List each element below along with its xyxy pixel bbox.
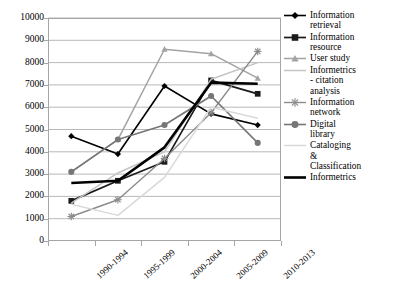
data-point-marker [292, 34, 299, 41]
data-point-marker [255, 140, 261, 146]
legend-label: Information retrieval [310, 10, 354, 31]
data-point-marker [68, 133, 74, 139]
legend-marker-diamond-icon [283, 10, 307, 21]
legend-item[interactable]: User study [283, 53, 398, 64]
legend-label: Informetrics [310, 172, 356, 182]
legend-item[interactable]: Information resource [283, 32, 398, 53]
legend-label: Information network [310, 97, 354, 118]
line-chart: 1000090008000700060005000400030002000100… [0, 0, 300, 300]
data-point-marker [255, 91, 261, 97]
legend-marker-circle-icon [283, 119, 307, 130]
legend-label: Information resource [310, 32, 354, 53]
series-line [71, 49, 257, 172]
data-point-marker [291, 98, 300, 107]
legend-marker-asterisk-icon [283, 97, 307, 108]
legend-marker-square-icon [283, 32, 307, 43]
legend-item[interactable]: Information retrieval [283, 10, 398, 31]
chart-screenshot: 1000090008000700060005000400030002000100… [0, 0, 398, 300]
data-point-marker [292, 121, 299, 128]
legend-label: Informetrics - citation analysis [310, 65, 356, 96]
data-point-marker [255, 122, 261, 128]
legend-item[interactable]: Informetrics [283, 172, 398, 183]
series-line [71, 86, 257, 154]
series-7 [71, 83, 257, 183]
series-1 [68, 78, 260, 204]
legend-marker-none-icon [283, 65, 307, 76]
legend-label: Digital library [310, 119, 336, 140]
series-line [71, 51, 257, 216]
legend-item[interactable]: Digital library [283, 119, 398, 140]
data-point-marker [291, 12, 298, 19]
chart-legend: Information retrievalInformation resourc… [283, 10, 398, 184]
data-point-marker [208, 93, 214, 99]
legend-label: User study [310, 53, 350, 63]
data-point-marker [161, 122, 167, 128]
legend-item[interactable]: Information network [283, 97, 398, 118]
legend-item[interactable]: Cataloging & Classification [283, 140, 398, 171]
legend-marker-none-icon [283, 140, 307, 151]
data-point-marker [115, 136, 121, 142]
legend-marker-triangle-icon [283, 53, 307, 64]
data-point-marker [254, 48, 262, 56]
data-point-marker [161, 155, 169, 163]
series-line [71, 83, 257, 183]
data-point-marker [255, 75, 261, 81]
legend-item[interactable]: Informetrics - citation analysis [283, 65, 398, 96]
data-point-marker [114, 196, 122, 204]
data-point-marker [68, 169, 74, 175]
legend-marker-none-icon [283, 172, 307, 183]
data-point-marker [68, 213, 76, 221]
legend-label: Cataloging & Classification [310, 140, 361, 171]
series-4 [68, 48, 262, 221]
